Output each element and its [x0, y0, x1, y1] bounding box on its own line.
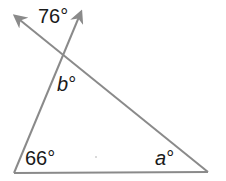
angle-b-variable: b: [57, 73, 68, 95]
angle-label-66: 66°: [25, 148, 55, 168]
triangle-base: [14, 172, 208, 173]
angle-label-76: 76°: [38, 6, 68, 26]
angle-66-text: 66°: [25, 147, 55, 169]
angle-a-variable: a: [155, 147, 166, 169]
angle-label-b: b°: [57, 74, 76, 94]
center-dot: [95, 156, 96, 157]
angle-a-degree: °: [166, 147, 174, 169]
angle-76-text: 76°: [38, 5, 68, 27]
angle-label-a: a°: [155, 148, 174, 168]
angle-b-degree: °: [68, 73, 76, 95]
